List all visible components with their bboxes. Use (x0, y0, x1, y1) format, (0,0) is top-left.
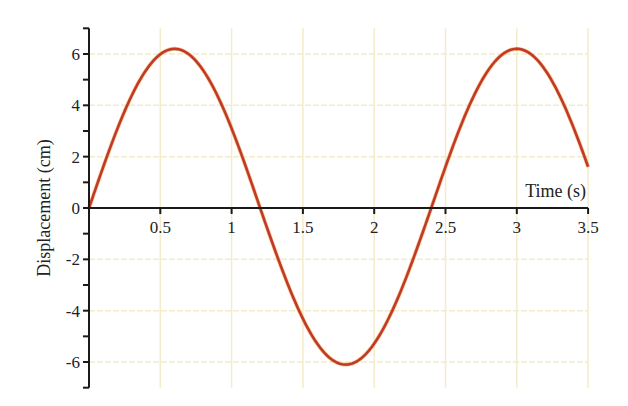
x-tick-label: 3.5 (577, 218, 598, 237)
x-tick-label: 0.5 (150, 218, 171, 237)
x-tick-label: 2.5 (435, 218, 456, 237)
y-axis-title: Displacement (cm) (34, 139, 55, 276)
y-tick-label: 6 (72, 45, 81, 64)
y-tick-label: -6 (66, 353, 80, 372)
y-tick-label: 4 (72, 96, 81, 115)
x-tick-label: 1 (227, 218, 236, 237)
y-tick-label: 0 (72, 199, 81, 218)
y-tick-label: 2 (72, 148, 81, 167)
x-axis-title: Time (s) (525, 181, 586, 202)
y-tick-label: -2 (66, 250, 80, 269)
displacement-time-chart: -6-4-202460.511.522.533.5 Time (s) Displ… (0, 0, 628, 406)
axes (83, 28, 588, 387)
y-tick-label: -4 (66, 302, 81, 321)
curve-glow (89, 49, 588, 365)
x-tick-label: 1.5 (292, 218, 313, 237)
curve-line (89, 49, 588, 365)
displacement-curve (89, 49, 588, 365)
x-tick-label: 2 (370, 218, 379, 237)
x-tick-label: 3 (513, 218, 522, 237)
